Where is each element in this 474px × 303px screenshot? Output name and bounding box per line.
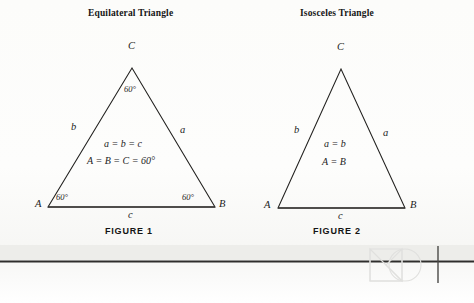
scanned-figure-page: Equilateral Triangle A B C 60° 60° 60° b… (0, 0, 474, 303)
figure2-side-label-b: b (294, 124, 299, 135)
figure2-side-label-c: c (338, 210, 343, 221)
figure2-caption: FIGURE 2 (313, 226, 361, 236)
figure2-vertex-label-B: B (410, 199, 416, 210)
figure2-triangle-drawing (0, 0, 474, 303)
figure2-relation-sides: a = b (324, 138, 346, 149)
figure2-relation-angles: A = B (322, 156, 346, 167)
figure2-vertex-label-A: A (264, 199, 270, 210)
figure2-side-label-a: a (383, 127, 388, 138)
figure2-vertex-label-C: C (337, 41, 344, 52)
